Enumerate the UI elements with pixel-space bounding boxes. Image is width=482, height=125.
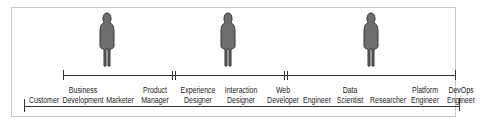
role-label-platform-engineer: Platform Engineer — [411, 85, 439, 105]
upper-spectrum-line — [63, 75, 456, 76]
role-label-customer: Customer — [29, 95, 59, 105]
upper-line-end-tick — [455, 70, 456, 80]
role-label-data-scientist: Data Scientist — [337, 85, 363, 105]
role-label-devops-engineer: DevOps Engineer — [447, 85, 475, 105]
upper-line-start-tick — [63, 70, 64, 80]
role-label-researcher: Researcher — [370, 95, 406, 105]
role-label-marketer: Marketer — [106, 95, 134, 105]
role-label-interaction-designer: Interaction Designer — [225, 85, 258, 105]
section-break-1b — [175, 71, 176, 80]
role-label-web-developer: Web Developer — [267, 85, 299, 105]
role-label-experience-designer: Experience Designer — [181, 85, 216, 105]
role-label-business-development: Business Development — [62, 85, 103, 105]
role-label-engineer: Engineer — [303, 95, 331, 105]
role-label-product-manager: Product Manager — [141, 85, 169, 105]
lower-spectrum-line — [24, 106, 460, 107]
section-break-2b — [287, 71, 288, 80]
person-icon — [98, 12, 116, 68]
person-icon — [219, 12, 237, 68]
section-break-1a — [172, 71, 173, 80]
person-icon — [362, 12, 380, 68]
section-break-2a — [284, 71, 285, 80]
lower-line-start-tick — [24, 99, 25, 112]
